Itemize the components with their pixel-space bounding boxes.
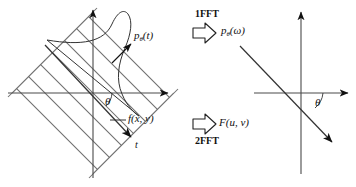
spectrum-label: pθ(ω)	[221, 25, 245, 38]
figure-canvas	[0, 0, 356, 187]
radon-fourier-figure: pθ(t) θ t f(x, y) 1FFT pθ(ω) 2FFT F(u, v…	[0, 0, 356, 187]
transform-arrow-2fft	[193, 114, 216, 134]
projection-label-leader	[112, 44, 131, 63]
transform-caption-1fft: 1FFT	[195, 9, 219, 19]
t-axis-label: t	[135, 140, 138, 150]
fourier-transform-label-main: F	[219, 116, 226, 128]
transform-arrow-1fft	[193, 23, 216, 43]
spectrum-label-arg: (ω)	[230, 24, 245, 36]
fourier-slice-line	[240, 46, 332, 142]
t-axis	[45, 45, 131, 137]
angle-label-right: θ	[315, 97, 320, 108]
transform-caption-2fft: 2FFT	[195, 136, 219, 146]
object-function-label: f(x, y)	[128, 113, 154, 124]
fourier-transform-label-arg: (u, v)	[226, 116, 249, 128]
projection-label: pθ(t)	[134, 30, 153, 43]
right-diagram-group	[240, 12, 348, 174]
angle-label-left: θ	[105, 96, 110, 107]
fourier-transform-label: F(u, v)	[219, 117, 249, 128]
projection-label-arg: (t)	[143, 29, 153, 41]
